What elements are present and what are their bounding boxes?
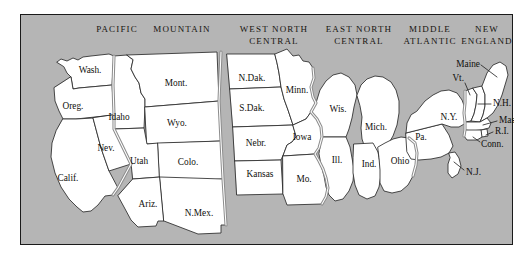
state-label-indiana: Ind. xyxy=(362,159,377,169)
map-panel: PACIFIC MOUNTAIN WEST NORTH CENTRAL EAST… xyxy=(20,14,513,245)
state-north-dakota xyxy=(227,54,281,89)
state-label-colorado: Colo. xyxy=(178,157,198,167)
state-label-missouri: Mo. xyxy=(296,174,311,184)
state-label-wyoming: Wyo. xyxy=(167,118,187,128)
state-label-wisconsin: Wis. xyxy=(330,104,347,114)
state-maine xyxy=(480,62,508,122)
us-map-svg: Wash. Oreg. Calif. Idaho Nev. Mont. Wyo.… xyxy=(21,15,514,246)
state-indiana xyxy=(353,143,381,199)
state-label-ohio: Ohio xyxy=(391,156,410,166)
state-label-vermont: Vt. xyxy=(452,73,464,83)
state-label-minnesota: Minn. xyxy=(286,85,308,95)
state-label-illinois: Ill. xyxy=(332,155,343,165)
state-label-iowa: Iowa xyxy=(293,132,312,142)
state-new-jersey xyxy=(448,152,461,178)
map-canvas: Wash. Oreg. Calif. Idaho Nev. Mont. Wyo.… xyxy=(21,15,514,246)
state-label-maine: Maine xyxy=(456,59,480,69)
state-label-new-jersey: N.J. xyxy=(466,167,481,177)
state-label-california: Calif. xyxy=(58,173,79,183)
state-label-new-mexico: N.Mex. xyxy=(185,208,213,218)
state-label-new-hampshire: N.H. xyxy=(493,98,511,108)
state-label-arizona: Ariz. xyxy=(139,199,158,209)
state-label-massachusetts: Mass. xyxy=(499,115,514,125)
state-label-kansas: Kansas xyxy=(247,169,274,179)
state-label-pennsylvania: Pa. xyxy=(415,132,427,142)
state-label-oregon: Oreg. xyxy=(63,101,84,111)
state-label-south-dakota: S.Dak. xyxy=(239,103,264,113)
state-label-rhode-island: R.I. xyxy=(495,126,509,136)
state-label-nevada: Nev. xyxy=(97,143,114,153)
state-label-washington: Wash. xyxy=(79,65,102,75)
state-label-new-york: N.Y. xyxy=(441,112,458,122)
state-label-michigan: Mich. xyxy=(365,122,387,132)
state-label-north-dakota: N.Dak. xyxy=(239,73,266,83)
state-connecticut xyxy=(464,130,482,140)
map-figure: PACIFIC MOUNTAIN WEST NORTH CENTRAL EAST… xyxy=(0,0,532,268)
state-new-mexico xyxy=(160,177,226,234)
state-label-idaho: Idaho xyxy=(108,112,130,122)
state-label-connecticut: Conn. xyxy=(481,139,503,149)
state-label-nebraska: Nebr. xyxy=(246,138,266,148)
state-label-montana: Mont. xyxy=(165,78,187,88)
state-label-utah: Utah xyxy=(130,156,148,166)
